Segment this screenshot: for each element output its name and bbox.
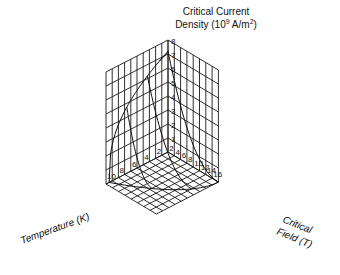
svg-text:7: 7 — [171, 51, 176, 60]
critical-surface-diagram: 12345678246810246810121416 Critical Curr… — [0, 0, 340, 275]
svg-text:8: 8 — [171, 37, 176, 46]
svg-text:1: 1 — [171, 135, 176, 144]
svg-text:2: 2 — [157, 147, 162, 156]
svg-text:8: 8 — [188, 155, 193, 164]
svg-text:6: 6 — [132, 160, 137, 169]
svg-text:4: 4 — [175, 148, 180, 157]
svg-text:5: 5 — [171, 79, 176, 88]
svg-text:2: 2 — [171, 121, 176, 130]
svg-text:10: 10 — [107, 172, 116, 181]
svg-text:3: 3 — [171, 107, 176, 116]
svg-text:8: 8 — [120, 166, 125, 175]
svg-text:2: 2 — [169, 144, 174, 153]
svg-text:4: 4 — [144, 153, 149, 162]
svg-text:16: 16 — [213, 170, 222, 179]
temperature-axis-label: Temperature (K) — [19, 211, 91, 246]
svg-text:6: 6 — [171, 65, 176, 74]
svg-text:6: 6 — [182, 151, 187, 160]
z-axis-label-line1: Critical Current — [183, 6, 250, 17]
svg-text:4: 4 — [171, 93, 176, 102]
z-axis-label-line2: Density (109 A/m2) — [175, 18, 257, 30]
